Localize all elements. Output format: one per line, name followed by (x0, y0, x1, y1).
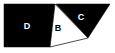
figure-svg: D B C (0, 0, 115, 53)
region-label-c: C (78, 12, 85, 22)
region-label-d: D (24, 21, 31, 31)
region-label-b: B (55, 23, 62, 33)
geometric-figure-canvas: D B C (0, 0, 115, 53)
